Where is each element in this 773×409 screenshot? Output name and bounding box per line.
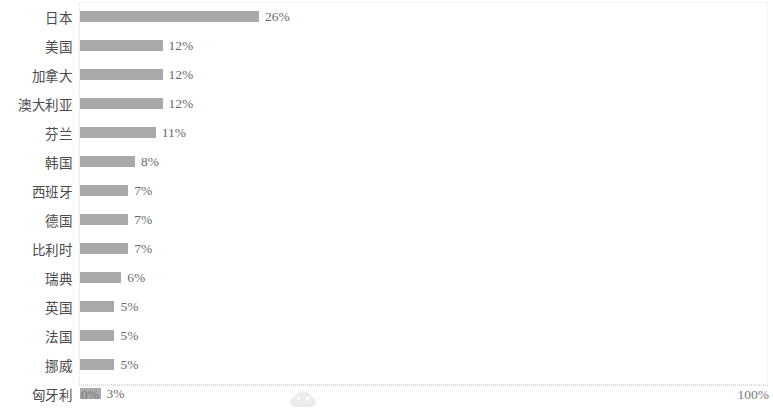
bar-row: 瑞典6% xyxy=(0,263,773,292)
bar-category-label: 加拿大 xyxy=(0,65,72,85)
bar xyxy=(80,359,114,370)
bar-row: 挪威5% xyxy=(0,350,773,379)
bar-value-label: 5% xyxy=(120,300,138,314)
bar xyxy=(80,301,114,312)
bar-category-label: 匈牙利 xyxy=(0,384,72,404)
bar-row: 美国12% xyxy=(0,31,773,60)
bar-and-value: 5% xyxy=(80,321,138,350)
bar-category-label: 韩国 xyxy=(0,152,72,172)
bar-row: 韩国8% xyxy=(0,147,773,176)
bar-value-label: 3% xyxy=(107,387,125,401)
bar xyxy=(80,330,114,341)
bar xyxy=(80,69,163,80)
bar-and-value: 8% xyxy=(80,147,159,176)
horizontal-bar-chart: 日本26%美国12%加拿大12%澳大利亚12%芬兰11%韩国8%西班牙7%德国7… xyxy=(0,0,773,409)
bar-and-value: 12% xyxy=(80,60,193,89)
bar-and-value: 5% xyxy=(80,350,138,379)
bar-value-label: 11% xyxy=(162,126,186,140)
bar-row: 英国5% xyxy=(0,292,773,321)
bar xyxy=(80,185,128,196)
bar xyxy=(80,11,259,22)
bar-and-value: 7% xyxy=(80,176,152,205)
bar xyxy=(80,40,163,51)
bar xyxy=(80,98,163,109)
bar-row: 加拿大12% xyxy=(0,60,773,89)
bar-value-label: 12% xyxy=(169,97,194,111)
bar-category-label: 英国 xyxy=(0,297,72,317)
x-axis-tick-min: 0% xyxy=(81,387,99,403)
bar-row: 匈牙利3% xyxy=(0,379,773,408)
bar-row: 德国7% xyxy=(0,205,773,234)
bar-category-label: 挪威 xyxy=(0,355,72,375)
bar-and-value: 26% xyxy=(80,2,290,31)
bar-category-label: 德国 xyxy=(0,210,72,230)
bar xyxy=(80,272,121,283)
bar-category-label: 日本 xyxy=(0,7,72,27)
bar-value-label: 6% xyxy=(127,271,145,285)
bar xyxy=(80,127,156,138)
bar-value-label: 12% xyxy=(169,39,194,53)
bar-category-label: 瑞典 xyxy=(0,268,72,288)
bar-value-label: 8% xyxy=(141,155,159,169)
bar-value-label: 12% xyxy=(169,68,194,82)
bar-and-value: 7% xyxy=(80,234,152,263)
bar-category-label: 澳大利亚 xyxy=(0,94,72,114)
bar-row: 澳大利亚12% xyxy=(0,89,773,118)
bar-row: 比利时7% xyxy=(0,234,773,263)
bar-category-label: 芬兰 xyxy=(0,123,72,143)
x-axis-tick-max: 100% xyxy=(738,387,770,403)
bar xyxy=(80,156,135,167)
bar-and-value: 5% xyxy=(80,292,138,321)
bar-value-label: 5% xyxy=(120,358,138,372)
bar-category-label: 西班牙 xyxy=(0,181,72,201)
bar-value-label: 7% xyxy=(134,242,152,256)
bar-and-value: 7% xyxy=(80,205,152,234)
bar-and-value: 12% xyxy=(80,89,193,118)
bar-row: 芬兰11% xyxy=(0,118,773,147)
bar-category-label: 美国 xyxy=(0,36,72,56)
bar-category-label: 法国 xyxy=(0,326,72,346)
bar-and-value: 6% xyxy=(80,263,145,292)
bar-and-value: 12% xyxy=(80,31,193,60)
bar-row: 西班牙7% xyxy=(0,176,773,205)
bar-category-label: 比利时 xyxy=(0,239,72,259)
bar-value-label: 7% xyxy=(134,213,152,227)
bar-value-label: 7% xyxy=(134,184,152,198)
bar-value-label: 5% xyxy=(120,329,138,343)
x-axis-baseline xyxy=(79,385,768,386)
bar-value-label: 26% xyxy=(265,10,290,24)
bar-rows-container: 日本26%美国12%加拿大12%澳大利亚12%芬兰11%韩国8%西班牙7%德国7… xyxy=(0,0,773,385)
bar-row: 法国5% xyxy=(0,321,773,350)
bar-and-value: 11% xyxy=(80,118,186,147)
bar xyxy=(80,214,128,225)
bar xyxy=(80,243,128,254)
bar-row: 日本26% xyxy=(0,2,773,31)
